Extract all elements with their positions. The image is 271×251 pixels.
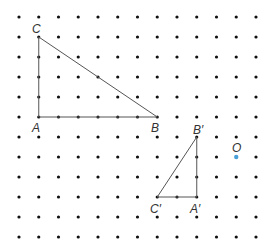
grid-dot xyxy=(215,15,218,18)
grid-dot xyxy=(156,55,159,58)
grid-dot xyxy=(57,235,60,238)
grid-dot xyxy=(17,155,20,158)
grid-dot xyxy=(156,135,159,138)
grid-dot xyxy=(254,95,257,98)
grid-dot xyxy=(37,135,40,138)
grid-dot xyxy=(254,215,257,218)
grid-dot xyxy=(57,215,60,218)
grid-dot xyxy=(77,15,80,18)
grid-dot xyxy=(96,135,99,138)
grid-dot xyxy=(175,215,178,218)
grid-dot xyxy=(17,15,20,18)
grid-dot xyxy=(37,235,40,238)
grid-dot xyxy=(175,35,178,38)
grid-dot xyxy=(235,235,238,238)
triangle-abc xyxy=(39,37,158,117)
grid-dot xyxy=(195,235,198,238)
grid-dot xyxy=(17,95,20,98)
label-a: A xyxy=(31,121,40,135)
label-o: O xyxy=(232,141,241,155)
grid-dot xyxy=(195,15,198,18)
grid-dot xyxy=(37,175,40,178)
grid-dot xyxy=(156,15,159,18)
grid-dot xyxy=(175,75,178,78)
grid-dot xyxy=(254,115,257,118)
grid-dot xyxy=(77,195,80,198)
grid-dot xyxy=(57,15,60,18)
grid-dot xyxy=(77,215,80,218)
grid-dot xyxy=(156,95,159,98)
grid-dot xyxy=(175,55,178,58)
grid-dot xyxy=(254,155,257,158)
grid-dot xyxy=(57,175,60,178)
grid-dot xyxy=(254,15,257,18)
grid-dot xyxy=(254,35,257,38)
grid-dot xyxy=(57,55,60,58)
grid-dot xyxy=(57,95,60,98)
grid-dot xyxy=(235,95,238,98)
grid-dot xyxy=(37,15,40,18)
grid-dot xyxy=(96,55,99,58)
grid-dot xyxy=(96,95,99,98)
grid-dot xyxy=(175,175,178,178)
center-point-o xyxy=(234,155,238,159)
grid-dot xyxy=(195,35,198,38)
grid-dot xyxy=(175,155,178,158)
grid-dot xyxy=(96,155,99,158)
grid-dot xyxy=(254,75,257,78)
grid-dot xyxy=(136,15,139,18)
grid-dot xyxy=(235,195,238,198)
grid-dot xyxy=(254,135,257,138)
dot-grid xyxy=(17,15,257,238)
grid-dot xyxy=(215,75,218,78)
grid-dot xyxy=(156,235,159,238)
grid-dot xyxy=(116,35,119,38)
grid-dot xyxy=(77,155,80,158)
grid-dot xyxy=(136,95,139,98)
grid-dot xyxy=(195,95,198,98)
grid-dot xyxy=(235,175,238,178)
grid-dot xyxy=(215,195,218,198)
grid-dot xyxy=(116,195,119,198)
grid-dot xyxy=(235,75,238,78)
grid-dot xyxy=(116,15,119,18)
grid-dot xyxy=(235,135,238,138)
label-b-prime: B′ xyxy=(193,123,204,137)
grid-dot xyxy=(77,135,80,138)
grid-dot xyxy=(96,215,99,218)
grid-dot xyxy=(96,15,99,18)
grid-dot xyxy=(215,135,218,138)
grid-dot xyxy=(136,135,139,138)
grid-dot xyxy=(116,135,119,138)
grid-dot xyxy=(57,135,60,138)
grid-dot xyxy=(116,95,119,98)
grid-dot xyxy=(116,235,119,238)
grid-dot xyxy=(96,175,99,178)
grid-dot xyxy=(116,175,119,178)
grid-dot xyxy=(116,75,119,78)
grid-dot xyxy=(17,235,20,238)
grid-dot xyxy=(156,175,159,178)
grid-dot xyxy=(57,195,60,198)
grid-dot xyxy=(156,75,159,78)
grid-dot xyxy=(235,35,238,38)
grid-dot xyxy=(215,155,218,158)
grid-dot xyxy=(37,195,40,198)
grid-dot xyxy=(57,155,60,158)
grid-dot xyxy=(116,215,119,218)
grid-dot xyxy=(195,55,198,58)
grid-dot xyxy=(17,215,20,218)
dot-grid-diagram: C A B B′ O C′ A′ xyxy=(0,0,271,251)
grid-dot xyxy=(77,35,80,38)
grid-dot xyxy=(77,75,80,78)
grid-dot xyxy=(136,75,139,78)
grid-dot xyxy=(175,115,178,118)
grid-dot xyxy=(254,55,257,58)
grid-dot xyxy=(235,15,238,18)
grid-dot xyxy=(17,195,20,198)
grid-dot xyxy=(116,55,119,58)
grid-dot xyxy=(136,155,139,158)
grid-dot xyxy=(17,115,20,118)
grid-dot xyxy=(77,55,80,58)
grid-dot xyxy=(136,55,139,58)
